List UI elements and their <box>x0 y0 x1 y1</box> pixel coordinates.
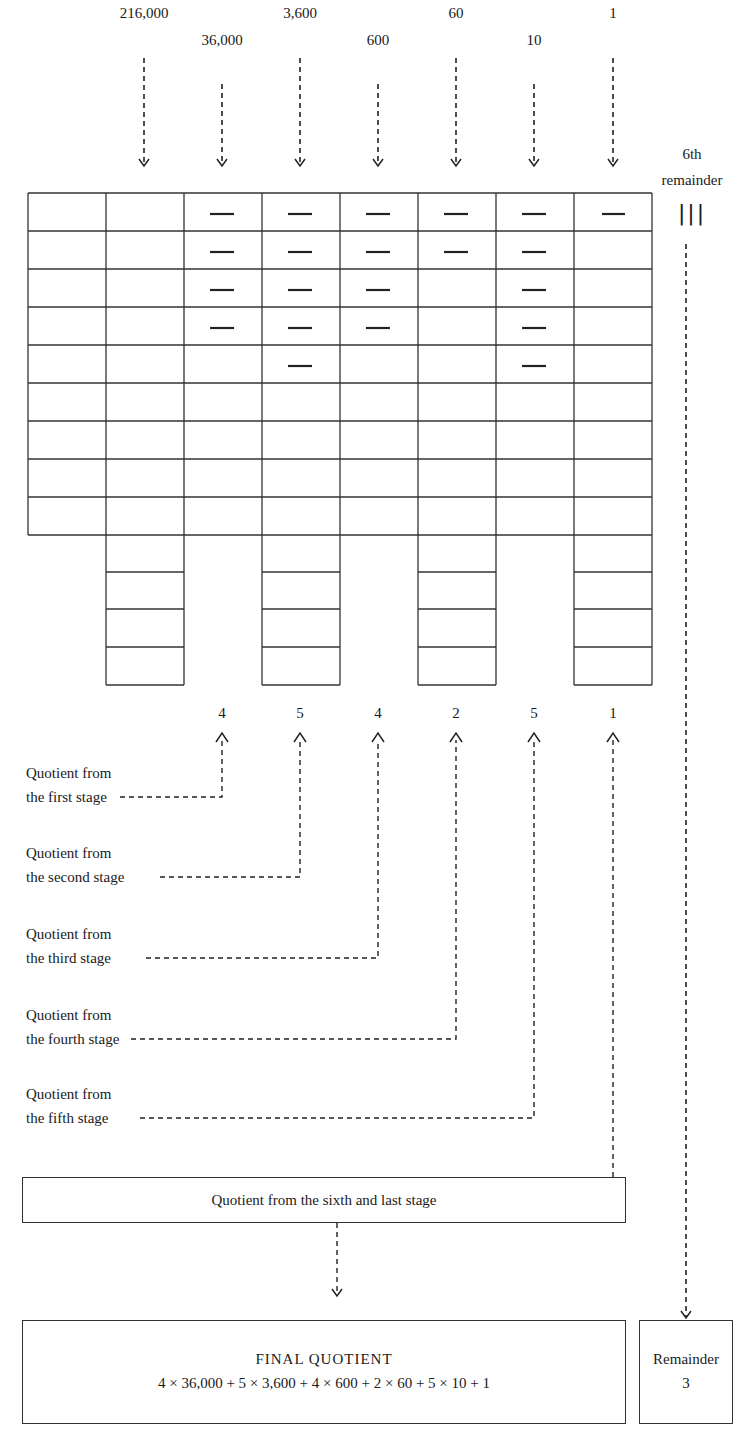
place-value-1: 1 <box>609 6 617 21</box>
place-value-3600: 3,600 <box>283 6 317 21</box>
quotient-digit-3: 4 <box>374 706 382 721</box>
quotient-digit-5: 5 <box>530 706 538 721</box>
hanging-stack-col8 <box>574 572 652 685</box>
final-quotient-expression: 4 × 36,000 + 5 × 3,600 + 4 × 600 + 2 × 6… <box>23 1375 625 1392</box>
stage-label-first-line2: the first stage <box>26 785 111 809</box>
quotient-up-arrows <box>216 733 619 742</box>
place-value-10: 10 <box>527 33 542 48</box>
place-value-60: 60 <box>449 6 464 21</box>
counting-board-grid <box>28 193 652 685</box>
quotient-digit-1: 4 <box>218 706 226 721</box>
quotient-digit-4: 2 <box>452 706 460 721</box>
stage-label-third-line2: the third stage <box>26 946 111 970</box>
hanging-stack-col2 <box>106 572 184 685</box>
hanging-stack-col6 <box>418 572 496 685</box>
stage-label-fourth-line1: Quotient from <box>26 1003 119 1027</box>
remainder-box-label: Remainder <box>640 1351 732 1368</box>
stage-label-fifth-line2: the fifth stage <box>26 1106 111 1130</box>
final-quotient-box: FINAL QUOTIENT 4 × 36,000 + 5 × 3,600 + … <box>22 1320 626 1424</box>
stage-label-second: Quotient from the second stage <box>26 841 124 889</box>
sixth-stage-text: Quotient from the sixth and last stage <box>23 1192 625 1209</box>
remainder-tally: ||| <box>678 202 706 224</box>
final-quotient-title: FINAL QUOTIENT <box>23 1351 625 1368</box>
stage-label-third-line1: Quotient from <box>26 922 111 946</box>
stage-label-fifth-line1: Quotient from <box>26 1082 111 1106</box>
remainder-box: Remainder 3 <box>639 1320 733 1424</box>
stage-label-third: Quotient from the third stage <box>26 922 111 970</box>
sixth-remainder-label-line2: remainder <box>662 173 723 188</box>
stage-label-fourth-line2: the fourth stage <box>26 1027 119 1051</box>
stage-label-first: Quotient from the first stage <box>26 761 111 809</box>
stage-label-second-line1: Quotient from <box>26 841 124 865</box>
remainder-box-value: 3 <box>640 1375 732 1392</box>
hanging-stack-col4 <box>262 572 340 685</box>
stage-label-fourth: Quotient from the fourth stage <box>26 1003 119 1051</box>
quotient-digit-2: 5 <box>296 706 304 721</box>
quotient-digit-6: 1 <box>609 706 617 721</box>
place-value-arrows <box>144 58 613 166</box>
stage-label-first-line1: Quotient from <box>26 761 111 785</box>
sixth-stage-box: Quotient from the sixth and last stage <box>22 1177 626 1223</box>
sixth-remainder-label-line1: 6th <box>682 147 701 162</box>
place-value-216000: 216,000 <box>120 6 169 21</box>
stage-label-second-line2: the second stage <box>26 865 124 889</box>
stage-label-fifth: Quotient from the fifth stage <box>26 1082 111 1130</box>
place-value-36000: 36,000 <box>201 33 242 48</box>
place-value-600: 600 <box>367 33 390 48</box>
